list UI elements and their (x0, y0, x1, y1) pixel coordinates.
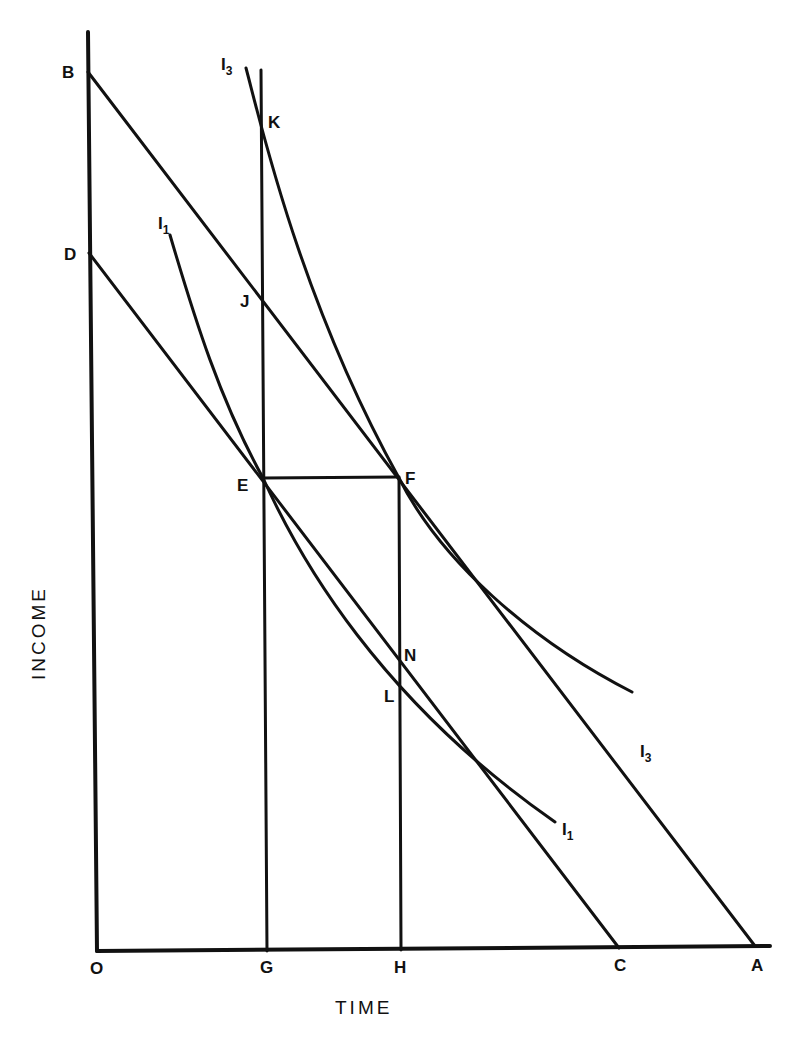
income-time-indifference-diagram: B D K J E F N L I3 I1 I3 I1 O G H C A TI… (0, 0, 794, 1055)
label-L: L (384, 687, 394, 706)
label-K: K (268, 113, 281, 132)
indifference-curve-I1 (170, 235, 555, 822)
label-H: H (394, 958, 406, 977)
vertical-line-H (399, 478, 401, 950)
label-I1-top: I1 (158, 214, 170, 237)
label-E: E (237, 476, 248, 495)
label-I1-bottom: I1 (562, 820, 574, 843)
label-A: A (751, 956, 763, 975)
y-axis-title: INCOME (28, 586, 49, 680)
vertical-line-G (261, 70, 267, 951)
label-origin-O: O (90, 959, 103, 978)
x-axis-title: TIME (335, 997, 392, 1018)
budget-line-DC (89, 253, 619, 948)
indifference-curve-I3 (246, 68, 632, 692)
x-axis (97, 946, 770, 951)
label-G: G (260, 958, 273, 977)
label-I3-top: I3 (221, 55, 233, 78)
label-D: D (64, 245, 76, 264)
label-J: J (240, 292, 249, 311)
y-axis (88, 32, 97, 951)
label-B: B (62, 63, 74, 82)
horizontal-line-EF (263, 477, 399, 478)
label-I3-bottom: I3 (640, 742, 652, 765)
budget-line-BA (88, 72, 755, 946)
label-N: N (404, 646, 416, 665)
label-C: C (614, 956, 626, 975)
label-F: F (405, 469, 415, 488)
